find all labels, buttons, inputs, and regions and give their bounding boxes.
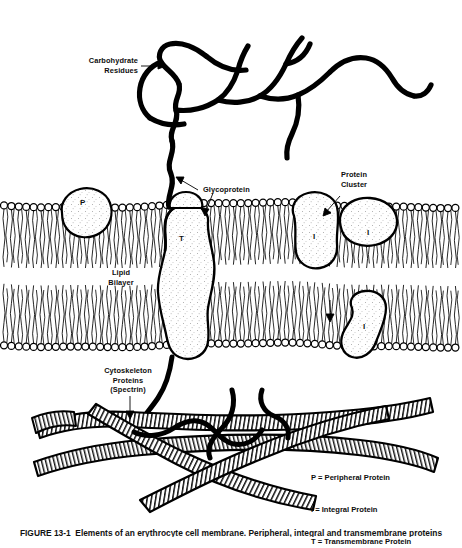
phospholipid-head — [82, 343, 89, 350]
phospholipid-tail — [77, 285, 79, 343]
integral-protein-upper-right — [340, 198, 397, 246]
phospholipid-tail — [47, 285, 49, 343]
phospholipid-tail — [413, 209, 415, 264]
phospholipid-tail — [292, 281, 294, 339]
phospholipid-head — [30, 343, 37, 350]
phospholipid-tail — [284, 281, 286, 339]
phospholipid-tail — [257, 286, 259, 341]
phospholipid-tail — [33, 285, 35, 343]
phospholipid-tail — [218, 207, 220, 265]
phospholipid-tail — [255, 206, 257, 264]
phospholipid-tail — [428, 290, 430, 345]
phospholipid-head — [252, 199, 259, 206]
phospholipid-tail — [70, 285, 72, 343]
phospholipid-tail — [417, 211, 419, 269]
phospholipid-tail — [228, 287, 230, 342]
phospholipid-tail — [410, 285, 412, 343]
phospholipid-tail — [457, 291, 459, 346]
phospholipid-head — [445, 344, 452, 351]
phospholipid-head — [289, 339, 296, 346]
phospholipid-head — [422, 204, 429, 211]
phospholipid-tail — [84, 285, 86, 343]
phospholipid-tail — [10, 210, 12, 268]
phospholipid-tail — [144, 210, 146, 268]
phospholipid-tail — [220, 287, 222, 342]
phospholipid-tail — [121, 286, 123, 344]
phospholipid-tail — [13, 289, 15, 344]
phospholipid-tail — [146, 209, 148, 264]
phospholipid-tail — [225, 207, 227, 265]
glycoprotein-leader — [181, 180, 198, 190]
phospholipid-tail — [35, 290, 37, 345]
phospholipid-head — [52, 204, 59, 211]
phospholipid-tail — [442, 291, 444, 346]
phospholipid-tail — [139, 210, 141, 265]
phospholipid-tail — [403, 210, 405, 268]
phospholipid-tail — [114, 286, 116, 344]
phospholipid-tail — [65, 290, 67, 345]
phospholipid-tail — [450, 211, 452, 266]
phospholipid-head — [445, 205, 452, 212]
phospholipid-tail — [18, 285, 20, 343]
phospholipid-tail — [272, 286, 274, 341]
phospholipid-head — [23, 203, 30, 210]
phospholipid-tail — [80, 290, 82, 345]
phospholipid-tail — [25, 210, 27, 268]
phospholipid-tail — [425, 211, 427, 269]
legend-item-integral: I = Integral Protein — [311, 505, 411, 516]
phospholipid-tail — [243, 287, 245, 342]
phospholipid-tail — [136, 211, 138, 269]
phospholipid-tail — [18, 210, 20, 268]
phospholipid-tail — [132, 210, 134, 265]
phospholipid-tail — [136, 285, 138, 343]
phospholipid-tail — [395, 285, 397, 343]
phospholipid-head — [23, 343, 30, 350]
label-glycoprotein: Glycoprotein — [203, 185, 273, 195]
label-protein-cluster: Protein Cluster — [325, 170, 383, 189]
phospholipid-tail — [306, 282, 308, 340]
phospholipid-tail — [440, 212, 442, 270]
phospholipid-tail — [287, 286, 289, 341]
phospholipid-tail — [6, 208, 8, 262]
phospholipid-tail — [262, 282, 264, 340]
phospholipid-head — [408, 204, 415, 211]
phospholipid-tail — [33, 211, 35, 269]
glycoprotein-arrowhead — [176, 177, 184, 184]
phospholipid-head — [1, 342, 8, 349]
phospholipid-tail — [435, 290, 437, 345]
phospholipid-tail — [95, 290, 97, 345]
phospholipid-head — [45, 204, 52, 211]
phospholipid-head — [245, 200, 252, 207]
phospholipid-tail — [428, 210, 430, 265]
phospholipid-tail — [3, 209, 5, 267]
phospholipid-tail — [117, 290, 119, 345]
phospholipid-tail — [317, 287, 319, 342]
phospholipid-tail — [151, 285, 153, 343]
phospholipid-tail — [413, 290, 415, 345]
phospholipid-tail — [294, 286, 296, 341]
phospholipid-head — [126, 344, 133, 351]
phospholipid-tail — [232, 207, 234, 265]
phospholipid-tail — [247, 207, 249, 265]
phospholipid-tail — [99, 285, 101, 343]
label-lipid-bilayer: Lipid Bilayer — [95, 268, 147, 287]
phospholipid-tail — [21, 209, 23, 264]
phospholipid-tail — [425, 286, 427, 344]
phospholipid-tail — [124, 210, 126, 265]
phospholipid-tail — [161, 208, 163, 263]
phospholipid-tail — [47, 211, 49, 269]
phospholipid-head — [415, 343, 422, 350]
phospholipid-head — [437, 344, 444, 351]
glycoprotein-head-shape — [170, 192, 203, 208]
protein-mark-integral-1: I — [313, 232, 315, 241]
phospholipid-tail — [3, 284, 5, 342]
phospholipid-tail — [287, 205, 289, 260]
phospholipid-head — [52, 343, 59, 350]
phospholipid-head — [304, 340, 311, 347]
phospholipid-tail — [240, 282, 242, 340]
phospholipid-tail — [87, 290, 89, 345]
phospholipid-tail — [454, 211, 456, 269]
phospholipid-tail — [13, 208, 15, 263]
phospholipid-tail — [218, 282, 220, 340]
phospholipid-head — [430, 204, 437, 211]
